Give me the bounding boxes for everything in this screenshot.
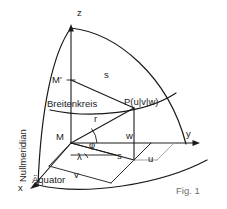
- y-axis-arrowhead: [193, 140, 201, 146]
- figure-caption: Fig. 1: [176, 185, 200, 196]
- latitude-circle-label: Breitenkreis: [47, 98, 97, 109]
- latitude-radius-upper-label: s: [104, 69, 109, 80]
- center-label: M: [56, 131, 64, 142]
- z-axis-label: z: [77, 7, 82, 18]
- surface-point-label: P(u|v|w): [124, 96, 159, 107]
- latitude-radius-lower-label: s: [117, 150, 122, 161]
- prime-meridian-label: Nullmeridian: [17, 129, 28, 182]
- v-to-foot-edge: [111, 160, 134, 183]
- x-projection-edge: [49, 143, 71, 166]
- sphere-coordinate-diagram: z y x M' M P(u|v|w) s r s w v u φ λ Brei…: [0, 0, 227, 209]
- radius-label: r: [94, 113, 97, 124]
- x-axis-label: x: [18, 182, 23, 193]
- latitude-angle-label: φ: [89, 139, 95, 150]
- figure-container: z y x M' M P(u|v|w) s r s w v u φ λ Brei…: [0, 0, 227, 209]
- v-component-label: v: [74, 169, 79, 180]
- equator-label: Äquator: [32, 174, 65, 185]
- u-component-parallelogram: [134, 143, 174, 160]
- height-label: w: [125, 130, 133, 141]
- u-component-label: u: [148, 153, 153, 164]
- y-meridian-arc: [71, 28, 186, 144]
- y-axis-label: y: [186, 128, 191, 139]
- longitude-angle-label: λ: [77, 151, 82, 162]
- longitude-angle-arc: [85, 154, 89, 159]
- pole-center-label: M': [52, 74, 62, 85]
